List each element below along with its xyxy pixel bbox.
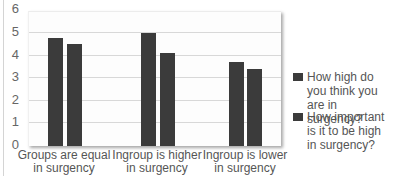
bar-lower-series2 (247, 69, 262, 146)
legend-swatch-icon (293, 73, 303, 81)
left-border-line (3, 0, 4, 176)
y-tick-4: 4 (5, 48, 19, 62)
bar-equal-series1 (48, 38, 63, 146)
y-tick-3: 3 (5, 70, 19, 84)
legend-swatch-icon (293, 113, 303, 121)
legend-label: How important is it to be high in surgen… (307, 110, 393, 152)
bar-equal-series2 (67, 44, 82, 146)
bar-higher-series1 (141, 33, 156, 146)
x-label-line: in surgency (195, 162, 295, 175)
x-label-line: in surgency (107, 162, 207, 175)
bar-lower-series1 (229, 62, 244, 146)
x-label-lower: Ingroup is lower in surgency (195, 149, 295, 175)
bar-higher-series2 (160, 53, 175, 146)
x-label-line: in surgency (14, 162, 114, 175)
y-tick-1: 1 (5, 115, 19, 129)
y-tick-2: 2 (5, 93, 19, 107)
x-label-higher: Ingroup is higher in surgency (107, 149, 207, 175)
y-tick-6: 6 (5, 2, 19, 16)
x-label-equal: Groups are equal in surgency (14, 149, 114, 175)
plot-area (28, 11, 281, 146)
y-tick-5: 5 (5, 25, 19, 39)
